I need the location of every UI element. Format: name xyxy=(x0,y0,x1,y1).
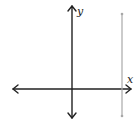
y-axis-label: y xyxy=(76,5,84,18)
y-axis xyxy=(68,6,76,118)
x-axis-label: x xyxy=(127,73,134,86)
line-endpoint-top xyxy=(121,13,124,16)
line-endpoint-bottom xyxy=(121,115,124,118)
vertical-line xyxy=(121,13,124,118)
coordinate-plane: y x xyxy=(0,0,140,124)
